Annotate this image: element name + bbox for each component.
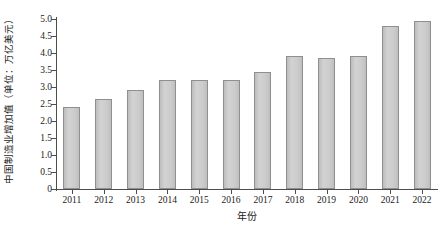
bar bbox=[159, 80, 176, 189]
bar bbox=[414, 21, 431, 189]
x-axis-tick-label: 2022 bbox=[402, 194, 442, 206]
bar bbox=[63, 107, 80, 189]
bar bbox=[127, 90, 144, 189]
bar bbox=[254, 72, 271, 189]
y-axis-tick-labels: 00.51.01.52.02.53.03.54.04.55.0 bbox=[22, 0, 52, 233]
y-axis-tick-label: 1.0 bbox=[22, 150, 52, 160]
y-axis-title: 中国制造业增加值（单位：万亿美元） bbox=[2, 4, 16, 194]
x-axis-line bbox=[56, 189, 438, 190]
y-axis-tick-label: 5.0 bbox=[22, 14, 52, 24]
y-axis-tick-label: 4.5 bbox=[22, 31, 52, 41]
y-axis-tick-label: 3.0 bbox=[22, 82, 52, 92]
bar bbox=[191, 80, 208, 189]
bar bbox=[286, 56, 303, 189]
x-axis-title: 年份 bbox=[56, 210, 438, 223]
bar-chart-figure: 中国制造业增加值（单位：万亿美元） 00.51.01.52.02.53.03.5… bbox=[0, 0, 448, 233]
bars-container bbox=[56, 19, 438, 189]
x-axis-tick-labels: 2011201220132014201520162017201820192020… bbox=[56, 194, 438, 208]
y-axis-tick-label: 4.0 bbox=[22, 48, 52, 58]
y-axis-tick-label: 0.5 bbox=[22, 167, 52, 177]
bar bbox=[318, 58, 335, 189]
y-axis-tick-label: 2.5 bbox=[22, 99, 52, 109]
bar bbox=[350, 56, 367, 189]
bar bbox=[382, 26, 399, 189]
y-axis-tick-label: 1.5 bbox=[22, 133, 52, 143]
y-axis-tick-label: 3.5 bbox=[22, 65, 52, 75]
y-axis-tick-label: 0 bbox=[22, 184, 52, 194]
y-axis-tick-mark bbox=[51, 189, 56, 190]
bar bbox=[223, 80, 240, 189]
y-axis-tick-label: 2.0 bbox=[22, 116, 52, 126]
bar bbox=[95, 99, 112, 189]
